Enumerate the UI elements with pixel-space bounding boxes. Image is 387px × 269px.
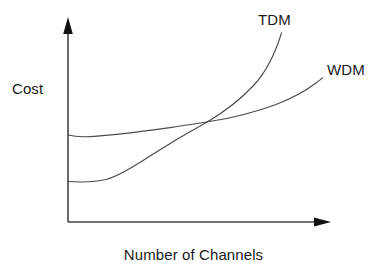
wdm-curve	[68, 78, 323, 137]
arrow-right-icon	[314, 217, 331, 226]
y-axis-label: Cost	[12, 80, 43, 97]
series-label-tdm: TDM	[258, 11, 291, 28]
cost-vs-channels-figure: Cost TDM WDM Number of Channels	[0, 0, 387, 269]
chart-canvas	[0, 0, 387, 269]
tdm-curve	[68, 33, 282, 182]
arrow-up-icon	[63, 17, 73, 34]
series-label-wdm: WDM	[327, 61, 365, 78]
x-axis-label: Number of Channels	[0, 246, 387, 263]
